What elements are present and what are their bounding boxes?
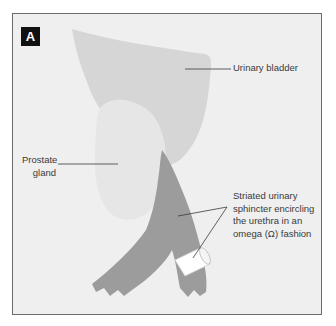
panel-label-badge: A [21,27,40,46]
label-prostate-gland: Prostate gland [22,154,56,179]
label-sphincter-line3: the urethra in an [233,215,323,228]
label-sphincter-line1: Striated urinary [233,190,323,203]
label-sphincter-line2: sphincter encircling [233,203,323,216]
label-prostate-line2: gland [22,167,56,180]
label-sphincter-line4: omega (Ω) fashion [233,228,323,241]
label-prostate-line1: Prostate [22,154,56,167]
label-urinary-bladder: Urinary bladder [233,62,298,75]
label-striated-sphincter: Striated urinary sphincter encircling th… [233,190,323,240]
sphincter-leader-line-2 [193,207,227,258]
